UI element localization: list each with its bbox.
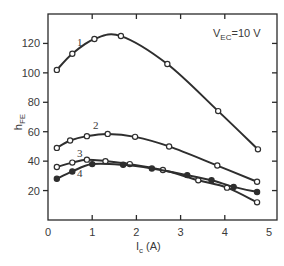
vec-annotation: VEC=10 V bbox=[213, 27, 261, 42]
data-point bbox=[149, 166, 154, 171]
data-point bbox=[68, 138, 73, 143]
data-point bbox=[132, 134, 137, 139]
curve-label-4: 4 bbox=[77, 167, 83, 179]
y-tick-label: 40 bbox=[28, 155, 40, 167]
data-point bbox=[54, 176, 59, 181]
curve-label-2: 2 bbox=[93, 119, 99, 131]
data-point bbox=[105, 131, 110, 136]
data-point bbox=[54, 145, 59, 150]
y-tick-label: 20 bbox=[28, 185, 40, 197]
x-tick-label: 5 bbox=[266, 226, 272, 238]
data-point bbox=[165, 61, 170, 66]
data-point bbox=[255, 147, 260, 152]
data-point bbox=[92, 36, 97, 41]
data-point bbox=[254, 179, 259, 184]
data-point bbox=[84, 157, 89, 162]
data-point bbox=[167, 144, 172, 149]
curve-label-1: 1 bbox=[77, 36, 83, 48]
data-point bbox=[90, 161, 95, 166]
data-point bbox=[118, 33, 123, 38]
hfe-vs-ic-chart: 01234520406080100120 1234 VEC=10 V Ic (A… bbox=[0, 0, 284, 266]
series-2: 2 bbox=[54, 119, 259, 185]
data-point bbox=[185, 173, 190, 178]
data-point bbox=[84, 134, 89, 139]
data-point bbox=[70, 160, 75, 165]
series-line-1 bbox=[57, 34, 258, 149]
data-point bbox=[215, 163, 220, 168]
y-tick-label: 80 bbox=[28, 96, 40, 108]
x-axis-label: Ic (A) bbox=[136, 240, 161, 255]
y-tick-label: 100 bbox=[22, 67, 40, 79]
data-point bbox=[70, 51, 75, 56]
x-tick-label: 3 bbox=[178, 226, 184, 238]
data-point bbox=[231, 184, 236, 189]
x-tick-label: 1 bbox=[89, 226, 95, 238]
data-point bbox=[254, 200, 259, 205]
curve-label-3: 3 bbox=[77, 147, 83, 159]
y-tick-label: 120 bbox=[22, 37, 40, 49]
x-tick-label: 4 bbox=[222, 226, 228, 238]
series-3: 3 bbox=[54, 147, 259, 205]
data-point bbox=[54, 164, 59, 169]
data-point bbox=[70, 169, 75, 174]
y-tick-label: 60 bbox=[28, 126, 40, 138]
y-axis-label: hFE bbox=[12, 114, 27, 130]
data-point bbox=[254, 189, 259, 194]
data-point bbox=[216, 109, 221, 114]
data-point bbox=[209, 178, 214, 183]
data-point bbox=[121, 162, 126, 167]
x-tick-label: 0 bbox=[45, 226, 51, 238]
data-point bbox=[54, 67, 59, 72]
x-tick-label: 2 bbox=[133, 226, 139, 238]
